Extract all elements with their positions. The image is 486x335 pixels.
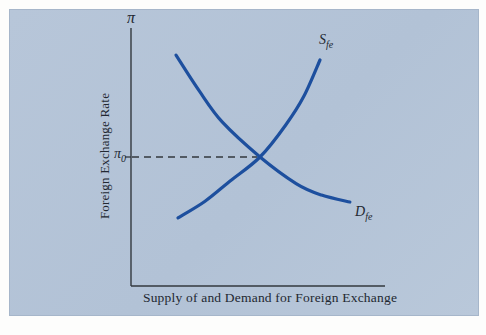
supply-curve-label: Sfe: [319, 33, 333, 50]
demand-symbol: D: [355, 204, 365, 219]
x-axis-title: Supply of and Demand for Foreign Exchang…: [143, 291, 397, 305]
pi0-symbol: π: [114, 146, 121, 161]
y-axis-max-symbol: π: [127, 10, 135, 26]
supply-symbol: S: [319, 32, 326, 47]
pi0-subscript: 0: [121, 153, 126, 164]
equilibrium-rate-label: π0: [88, 147, 126, 164]
figure-panel: [9, 9, 479, 316]
scanned-textbook-page: π Foreign Exchange Rate π0 Sfe Dfe Suppl…: [0, 0, 486, 335]
supply-subscript: fe: [326, 39, 333, 50]
demand-curve-label: Dfe: [355, 205, 372, 222]
demand-subscript: fe: [365, 211, 372, 222]
